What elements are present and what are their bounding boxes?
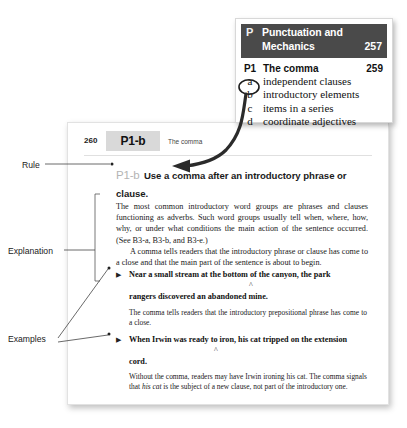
- index-card: P Punctuation and Mechanics 257 P1 The c…: [235, 18, 393, 123]
- rule-number: P1-b: [116, 169, 140, 181]
- section-tag-box: P1-b: [106, 131, 160, 151]
- rule-statement: P1-b Use a comma after an introductory p…: [116, 165, 366, 201]
- section-page-number: 257: [364, 40, 382, 52]
- index-entry-p1[interactable]: P1 The comma 259: [241, 62, 387, 75]
- page-folio: 260: [84, 136, 97, 145]
- index-card-header: P Punctuation and Mechanics 257: [241, 24, 387, 58]
- running-head: 260 P1-b The comma: [68, 131, 388, 153]
- diagram-canvas: P Punctuation and Mechanics 257 P1 The c…: [0, 0, 407, 428]
- rule-text: Use a comma after an introductory phrase…: [116, 170, 347, 199]
- entry-page: 259: [366, 62, 383, 75]
- section-tag-label: P1-b: [106, 134, 160, 148]
- entry-mark: b: [243, 88, 257, 101]
- triangle-bullet-icon: ▶: [116, 270, 121, 280]
- explanation-block: The most common introductory word groups…: [116, 201, 368, 268]
- index-entry-c[interactable]: c items in a series: [241, 102, 387, 115]
- example-2-note-part-2: is the subject of a new clause, not part…: [161, 382, 347, 391]
- example-1-caret: ^: [249, 282, 253, 290]
- header-divider: [84, 155, 372, 156]
- entry-label: The comma: [263, 62, 319, 75]
- example-2-caret: ^: [214, 347, 218, 355]
- example-2-note-italic: his cat: [142, 382, 162, 391]
- entry-mark: P1: [243, 62, 257, 75]
- running-title: The comma: [168, 138, 202, 145]
- example-2-note: Without the comma, readers may have Irwi…: [129, 372, 367, 391]
- entry-label: coordinate adjectives: [263, 115, 356, 128]
- example-2-sentence-line-1: When Irwin was ready to iron, his cat tr…: [129, 334, 365, 345]
- example-2-sentence-line-2: cord.: [129, 356, 365, 367]
- section-title: Punctuation and Mechanics: [262, 26, 359, 53]
- triangle-bullet-icon: ▶: [116, 335, 121, 345]
- example-1-sentence-line-2: rangers discovered an abandoned mine.: [129, 291, 365, 302]
- book-page: 260 P1-b The comma P1-b Use a comma afte…: [67, 122, 389, 405]
- index-entry-d[interactable]: d coordinate adjectives: [241, 115, 387, 128]
- index-entry-b[interactable]: b introductory elements: [241, 88, 387, 101]
- entry-mark: a: [243, 75, 257, 88]
- index-entry-a[interactable]: a independent clauses: [241, 75, 387, 88]
- entry-label: independent clauses: [263, 75, 351, 88]
- annotation-label-explanation: Explanation: [8, 246, 53, 256]
- example-1-sentence-line-1: Near a small stream at the bottom of the…: [129, 269, 365, 280]
- annotation-label-rule: Rule: [22, 160, 40, 170]
- index-card-entry-list: P1 The comma 259 a independent clauses b…: [241, 62, 387, 128]
- entry-label: items in a series: [263, 102, 334, 115]
- annotation-label-examples: Examples: [8, 334, 46, 344]
- entry-mark: c: [243, 102, 257, 115]
- entry-label: introductory elements: [263, 88, 359, 101]
- example-1-note: The comma tells readers that the introdu…: [129, 308, 367, 327]
- entry-mark: d: [243, 115, 257, 128]
- explanation-paragraph-1: The most common introductory word groups…: [116, 201, 368, 246]
- explanation-paragraph-2: A comma tells readers that the introduct…: [116, 246, 368, 268]
- section-letter: P: [246, 26, 253, 39]
